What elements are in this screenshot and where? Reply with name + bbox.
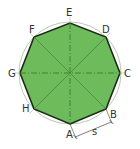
octagon-diagram: s ABCDEFGH	[0, 0, 140, 149]
dimension-tick-0	[73, 135, 77, 139]
dimension-tick-1	[109, 120, 113, 124]
vertex-label-b: B	[110, 109, 117, 120]
vertex-label-f: F	[29, 24, 35, 35]
vertex-label-a: A	[66, 129, 73, 140]
vertex-tick-h	[30, 109, 34, 113]
vertex-label-d: D	[102, 24, 110, 35]
vertex-label-g: G	[8, 68, 16, 79]
vertex-label-e: E	[66, 7, 72, 18]
octagon-figure: s ABCDEFGH	[0, 0, 140, 149]
vertex-label-c: C	[124, 68, 131, 79]
vertex-label-h: H	[22, 103, 30, 114]
side-length-label: s	[92, 126, 97, 137]
